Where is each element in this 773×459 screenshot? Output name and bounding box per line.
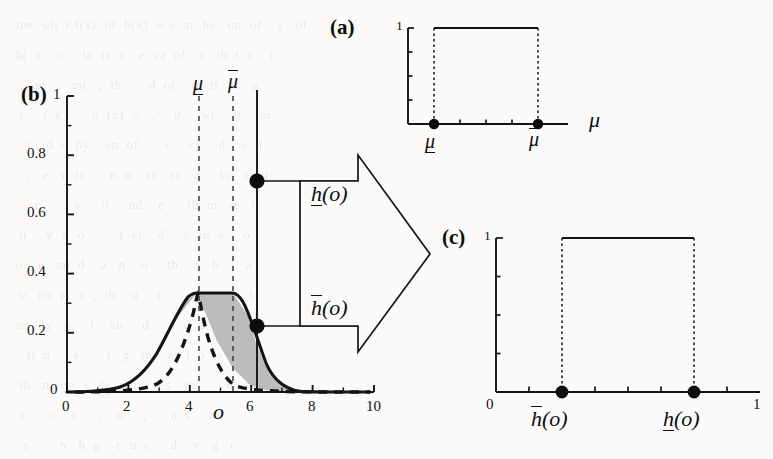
panel-b-callout-h-upper: h(o)	[311, 295, 348, 321]
panel-b-mu-lower-label: μ	[193, 72, 203, 95]
panel-c-y-ticks	[496, 238, 503, 354]
panel-c-tag: (c)	[442, 225, 465, 250]
panel-b-callout-h-lower: h(o)	[311, 181, 348, 207]
panel-c-h-lower-dot	[688, 386, 701, 399]
panel-c-h-upper-dot	[556, 386, 569, 399]
panel-a-mu-lower-dot	[429, 119, 439, 129]
figure-canvas: ine wh r f(x) of h(x) w e ar he on of y …	[0, 0, 773, 459]
panel-c-h-lower-tick-label: h(o)	[663, 406, 700, 432]
panel-b-ytick-0: 0	[50, 381, 58, 398]
panel-c-group	[496, 238, 760, 398]
panel-b-lower-intersection-dot	[249, 318, 264, 333]
panel-b-ytick-08: 0.8	[27, 145, 46, 162]
panel-a-group	[408, 28, 568, 129]
panel-a-x-axis-label: μ	[589, 107, 600, 133]
panel-c-h-upper-tick-label: h(o)	[531, 406, 568, 432]
panel-b-xtick-8: 8	[308, 398, 316, 415]
panel-a-ytick-1: 1	[396, 18, 403, 34]
panel-b-xtick-6: 6	[246, 398, 254, 415]
panel-c-xtick-0: 0	[486, 396, 494, 413]
panel-b-ytick-06: 0.6	[27, 204, 46, 221]
panel-b-xtick-0: 0	[62, 398, 70, 415]
panel-b-x-axis-label: o	[213, 399, 224, 425]
panel-a-tag: (a)	[330, 15, 355, 40]
panel-a-mu-lower-tick-label: μ	[425, 130, 435, 153]
panel-b-ytick-02: 0.2	[27, 322, 46, 339]
panel-b-xtick-2: 2	[123, 398, 131, 415]
panel-b-mu-upper-label: μ	[228, 70, 238, 93]
panel-b-ytick-04: 0.4	[27, 263, 46, 280]
panel-b-xtick-10: 10	[366, 398, 381, 415]
panel-b-ytick-1: 1	[53, 86, 61, 103]
panel-b-tag: (b)	[21, 82, 47, 107]
panel-c-xtick-1: 1	[753, 396, 761, 413]
panel-c-ytick-1: 1	[484, 228, 491, 244]
panel-b-upper-intersection-dot	[249, 173, 264, 188]
figure-vector-layer	[0, 0, 773, 459]
panel-a-mu-upper-tick-label: μ	[529, 128, 539, 151]
panel-b-xtick-4: 4	[185, 398, 193, 415]
